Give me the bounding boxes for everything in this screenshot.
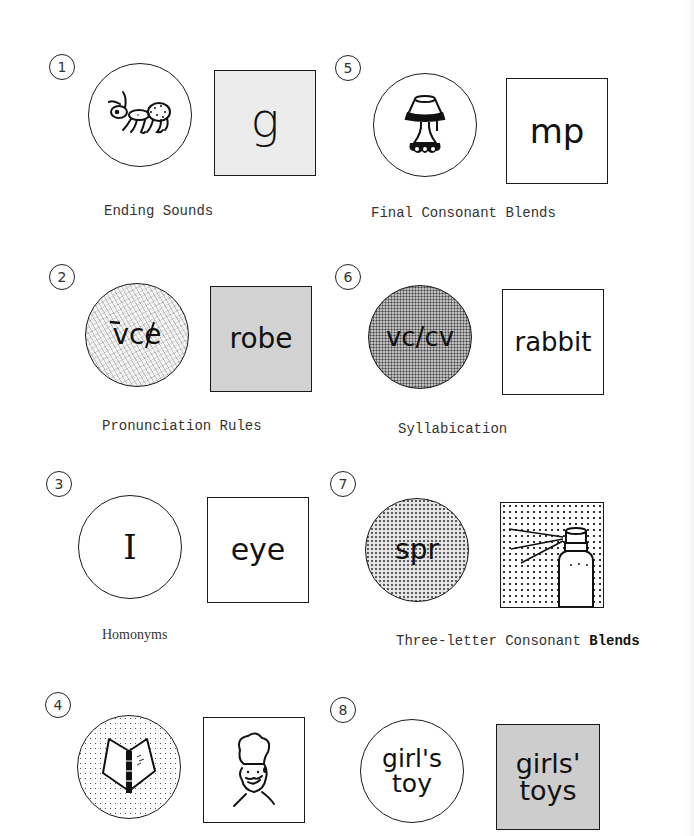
item-1-label: Ending Sounds: [104, 203, 213, 219]
item-number-badge: 1: [49, 54, 75, 80]
item-3-label: Homonyms: [102, 627, 167, 643]
item-2-rule-circle: vce: [85, 283, 189, 387]
item-1-letter-square: g: [214, 70, 316, 176]
square-text-line2: toys: [516, 777, 581, 804]
item-3-word-circle: I: [78, 495, 182, 599]
item-number-badge: 8: [330, 697, 356, 723]
circle-text-block: girl's toy: [382, 746, 442, 796]
circle-text: I: [123, 530, 136, 564]
item-number-badge: 3: [46, 471, 72, 497]
book-icon: [99, 735, 159, 799]
item-number: 2: [58, 269, 67, 285]
item-2-label: Pronunciation Rules: [102, 418, 262, 434]
item-number-badge: 2: [49, 264, 75, 290]
item-number-badge: 4: [45, 692, 71, 718]
item-number: 8: [339, 702, 348, 718]
item-number: 4: [54, 697, 63, 713]
item-number-badge: 5: [335, 55, 361, 81]
item-8-possessive-circle: girl's toy: [360, 719, 464, 823]
macron-slash-marks-icon: [85, 283, 188, 386]
item-6-word-square: rabbit: [502, 289, 604, 395]
square-text: mp: [530, 114, 585, 148]
page-edge-shadow: [686, 0, 694, 836]
spray-can-icon: [500, 502, 603, 607]
item-5-letter-square: mp: [506, 78, 608, 184]
item-number: 7: [339, 476, 348, 492]
item-number-badge: 7: [330, 471, 356, 497]
item-number: 3: [55, 476, 64, 492]
square-text-block: girls' toys: [516, 750, 581, 804]
square-text: g: [251, 96, 280, 144]
item-3-word-square: eye: [207, 497, 309, 603]
item-4-picture-square: [203, 717, 305, 823]
item-7-picture-square: [500, 502, 604, 608]
item-7-label-bold: Blends: [589, 633, 639, 649]
item-2-word-square: robe: [210, 286, 312, 392]
item-number: 1: [58, 59, 67, 75]
circle-text: vc/cv: [386, 324, 454, 350]
chef-icon: [224, 730, 284, 810]
item-4-picture-circle: [77, 715, 181, 819]
item-8-possessive-square: girls' toys: [496, 724, 600, 830]
square-text: eye: [231, 535, 286, 565]
circle-text: spr: [395, 536, 439, 564]
ant-icon: [105, 90, 175, 140]
item-number: 5: [344, 60, 353, 76]
circle-text-line2: toy: [382, 771, 442, 796]
item-7-label: Three-letter Consonant Blends: [396, 633, 640, 649]
square-text-line1: girls': [516, 750, 581, 777]
item-5-label: Final Consonant Blends: [371, 205, 556, 221]
item-7-label-main: Three-letter Consonant: [396, 633, 589, 649]
lamp-icon: [400, 93, 450, 157]
circle-text-line1: girl's: [382, 746, 442, 771]
item-6-rule-circle: vc/cv: [368, 285, 472, 389]
item-number: 6: [344, 269, 353, 285]
item-5-picture-circle: [373, 73, 477, 177]
square-text: robe: [229, 325, 292, 353]
square-text: rabbit: [514, 329, 591, 355]
item-7-blend-circle: spr: [365, 498, 469, 602]
item-1-picture-circle: [88, 63, 192, 167]
item-6-label: Syllabication: [398, 421, 507, 437]
item-number-badge: 6: [335, 264, 361, 290]
